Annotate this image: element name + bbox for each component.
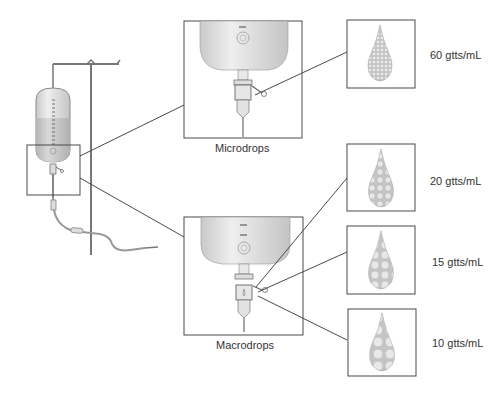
drop-rate-label-20: 20 gtts/mL: [430, 175, 481, 187]
drop-rate-label-15: 15 gtts/mL: [432, 256, 483, 268]
drop-box-20: [347, 144, 415, 211]
iv-bag: [36, 88, 70, 162]
drop-rate-label-10: 10 gtts/mL: [432, 337, 483, 349]
iv-drip-diagram: Microdrops Macrodrops 60 gtts/mL 20 gtts…: [0, 0, 504, 393]
macrodrops-label: Macrodrops: [216, 339, 274, 351]
drop-box-15: [347, 226, 415, 294]
zoom-connectors: [80, 105, 184, 237]
microdrops-panel: [184, 21, 302, 138]
macrodrops-panel: [184, 217, 303, 335]
microdrops-label: Microdrops: [215, 142, 269, 154]
iv-tubing: [51, 198, 158, 250]
drip-chamber-small: [50, 164, 64, 198]
drop-rate-label-60: 60 gtts/mL: [430, 49, 481, 61]
drop-box-10: [348, 309, 416, 376]
drop-box-60: [347, 20, 415, 88]
